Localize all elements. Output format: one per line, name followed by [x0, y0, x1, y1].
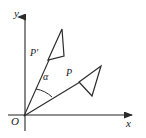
rotated-triangle-p-prime: [48, 29, 64, 60]
ray-to-p-prime: [24, 60, 49, 116]
point-label-p-prime: P′: [30, 48, 38, 58]
figure-canvas: [0, 0, 146, 138]
original-triangle-p: [79, 66, 101, 96]
angle-label-alpha: α: [43, 72, 48, 82]
ray-to-p: [24, 82, 80, 116]
geometry-figure: y x O P′ P α: [0, 0, 146, 138]
origin-label: O: [11, 116, 19, 127]
point-label-p: P: [66, 68, 72, 78]
angle-arc-alpha: [36, 89, 52, 97]
x-axis-label: x: [126, 118, 131, 129]
y-axis-label: y: [14, 8, 19, 19]
